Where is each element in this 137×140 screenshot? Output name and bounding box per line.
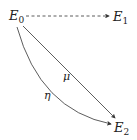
node-e0-sub: 0 (19, 15, 25, 25)
edge-label-mu: μ (63, 71, 70, 82)
node-e2-sub: 2 (124, 127, 130, 137)
node-e2-main: E (114, 120, 124, 135)
edge-label-eta: η (44, 90, 51, 101)
node-e2: E2 (114, 121, 129, 137)
node-e0: E0 (9, 9, 24, 25)
node-e0-main: E (9, 8, 19, 23)
node-e1-sub: 1 (123, 16, 129, 26)
node-e1: E1 (113, 10, 128, 26)
node-e1-main: E (113, 9, 123, 24)
